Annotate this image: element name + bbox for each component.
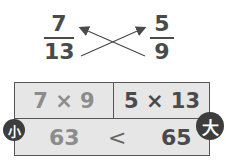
- big-badge-icon: 大: [196, 112, 224, 140]
- comparison-table: 7 × 9 5 × 13 63 < 65: [14, 82, 210, 156]
- right-result: 65: [161, 119, 192, 155]
- comparison-operator: <: [108, 119, 126, 155]
- left-product: 7 × 9: [15, 83, 114, 118]
- left-result: 63: [49, 119, 80, 155]
- cross-arrows-icon: [0, 0, 226, 80]
- products-row: 7 × 9 5 × 13: [15, 83, 209, 119]
- right-product: 5 × 13: [114, 83, 210, 118]
- small-badge-icon: 小: [3, 119, 25, 141]
- results-row: 63 < 65: [15, 119, 209, 155]
